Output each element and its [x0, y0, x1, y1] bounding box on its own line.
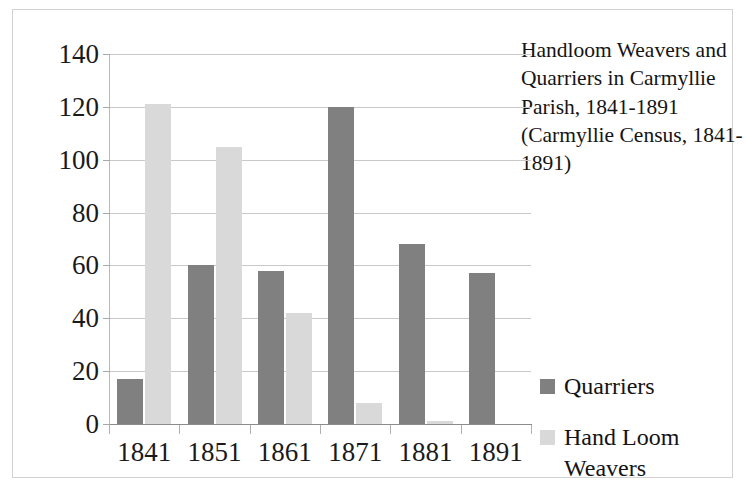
y-tick-label: 20 [21, 358, 99, 385]
x-tick-mark [390, 425, 391, 434]
gridline [109, 213, 531, 214]
legend-item-hand-loom-weavers[interactable]: Hand Loom Weavers [540, 422, 679, 484]
plot-area [109, 54, 531, 424]
y-tick-mark [103, 107, 110, 108]
bar[interactable] [286, 313, 312, 424]
y-tick-label: 60 [21, 252, 99, 279]
y-tick-mark [103, 424, 110, 425]
gridline [109, 265, 531, 266]
legend-label-hand-loom-weavers: Hand Loom Weavers [564, 422, 679, 484]
y-tick-mark [103, 54, 110, 55]
bar[interactable] [145, 104, 171, 424]
chart-title: Handloom Weavers and Quarriers in Carmyl… [521, 36, 743, 177]
chart-frame: Handloom Weavers and Quarriers in Carmyl… [12, 9, 733, 478]
y-tick-label: 80 [21, 200, 99, 227]
x-tick-mark [461, 425, 462, 434]
x-tick-label: 1881 [390, 439, 460, 466]
y-tick-mark [103, 371, 110, 372]
x-tick-label: 1851 [179, 439, 249, 466]
gridline [109, 371, 531, 372]
bar[interactable] [216, 147, 242, 425]
gridline [109, 54, 531, 55]
y-tick-label: 120 [21, 94, 99, 121]
y-axis: 020406080100120140 [13, 10, 99, 479]
gridline [109, 160, 531, 161]
x-tick-mark [531, 425, 532, 434]
bar[interactable] [328, 107, 354, 424]
y-tick-mark [103, 318, 110, 319]
x-tick-mark [109, 425, 110, 434]
legend-swatch-quarriers [540, 379, 555, 394]
legend-swatch-hand-loom-weavers [540, 430, 555, 445]
y-tick-label: 140 [21, 41, 99, 68]
y-tick-mark [103, 213, 110, 214]
x-tick-mark [250, 425, 251, 434]
x-tick-label: 1841 [109, 439, 179, 466]
bar[interactable] [117, 379, 143, 424]
bar[interactable] [399, 244, 425, 424]
y-tick-mark [103, 160, 110, 161]
bar[interactable] [356, 403, 382, 424]
x-tick-label: 1861 [250, 439, 320, 466]
y-tick-label: 40 [21, 305, 99, 332]
x-tick-mark [320, 425, 321, 434]
y-tick-label: 100 [21, 147, 99, 174]
bar[interactable] [188, 265, 214, 424]
gridline [109, 318, 531, 319]
y-tick-label: 0 [21, 411, 99, 438]
x-tick-label: 1891 [461, 439, 531, 466]
legend-label-quarriers: Quarriers [564, 371, 655, 402]
legend-item-quarriers[interactable]: Quarriers [540, 371, 655, 402]
bar[interactable] [469, 273, 495, 424]
y-tick-mark [103, 265, 110, 266]
x-tick-mark [179, 425, 180, 434]
bar[interactable] [258, 271, 284, 424]
chart-screenshot: Handloom Weavers and Quarriers in Carmyl… [0, 0, 745, 490]
gridline [109, 107, 531, 108]
x-tick-label: 1871 [320, 439, 390, 466]
